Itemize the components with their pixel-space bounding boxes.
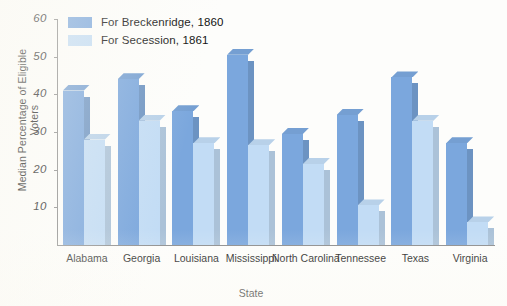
bar-tennessee-series-1 [337,115,358,245]
bar-top-face [391,71,418,77]
bar-top-face [172,105,199,111]
legend-label-breckenridge: For Breckenridge, 1860 [101,16,223,28]
bar-front-face [172,111,193,245]
legend-item-breckenridge: For Breckenridge, 1860 [68,16,223,28]
y-tick-mark [54,19,58,20]
bar-front-face [337,115,358,245]
bar-front-face [303,164,324,245]
y-tick-mark [54,94,58,95]
bar-top-face [337,109,364,115]
y-tick-mark [54,57,58,58]
bar-front-face [282,134,303,245]
x-axis-title: State [196,287,306,299]
y-tick-label: 10 [25,200,47,212]
bar-top-face [227,49,254,55]
bar-virginia-series-2 [467,222,488,245]
bar-top-face [282,128,309,134]
bar-front-face [84,140,105,245]
y-tick-label: 60 [25,12,47,24]
bar-chart-figure: Median Percentage of Eligible Voters 102… [0,0,507,306]
bar-front-face [227,55,248,245]
bar-front-face [467,222,488,245]
bar-texas-series-1 [391,77,412,245]
bar-top-face [63,85,90,91]
bar-side-face [433,127,439,245]
bar-georgia-series-2 [139,121,160,245]
y-axis-title: Median Percentage of Eligible Voters [16,40,40,200]
bar-side-face [488,228,494,245]
bar-front-face [118,79,139,245]
y-tick-label: 40 [25,87,47,99]
bar-mississippi-series-2 [248,145,269,245]
bar-georgia-series-1 [118,79,139,245]
x-axis-line [57,245,495,246]
bar-side-face [379,211,385,245]
bar-front-face [248,145,269,245]
bar-virginia-series-1 [446,143,467,245]
bar-louisiana-series-2 [193,143,214,245]
bar-louisiana-series-1 [172,111,193,245]
plot-area: Median Percentage of Eligible Voters 102… [0,0,507,306]
y-tick-label: 20 [25,163,47,175]
y-tick-mark [54,207,58,208]
bar-front-face [139,121,160,245]
bar-north-carolina-series-2 [303,164,324,245]
bar-front-face [358,205,379,245]
category-label-virginia: Virginia [436,252,505,264]
bar-side-face [324,170,330,245]
legend-swatch-secession [68,35,92,46]
y-tick-mark [54,132,58,133]
bar-alabama-series-1 [63,91,84,245]
y-tick-label: 50 [25,50,47,62]
chart-legend: For Breckenridge, 1860 For Secession, 18… [68,16,223,52]
bar-top-face [446,137,473,143]
bar-texas-series-2 [412,121,433,245]
bar-side-face [214,149,220,245]
bar-side-face [160,127,166,245]
legend-item-secession: For Secession, 1861 [68,34,223,46]
y-tick-mark [54,170,58,171]
bar-side-face [105,146,111,245]
legend-swatch-breckenridge [68,17,92,28]
bar-mississippi-series-1 [227,55,248,245]
bar-front-face [446,143,467,245]
bar-north-carolina-series-1 [282,134,303,245]
bar-front-face [63,91,84,245]
legend-label-secession: For Secession, 1861 [101,34,208,46]
bar-side-face [269,151,275,245]
bar-front-face [193,143,214,245]
bar-front-face [391,77,412,245]
y-tick-label: 30 [25,125,47,137]
bar-alabama-series-2 [84,140,105,245]
bar-top-face [118,73,145,79]
bar-tennessee-series-2 [358,205,379,245]
bar-front-face [412,121,433,245]
